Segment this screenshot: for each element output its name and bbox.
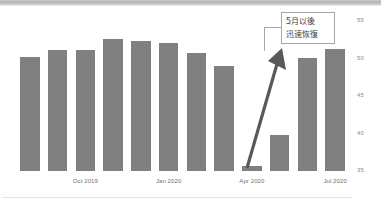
callout-leader-horizontal <box>264 27 282 28</box>
callout-leader-vertical <box>264 27 265 51</box>
callout-line-1: 5月以後 <box>286 15 331 28</box>
recovery-callout-box: 5月以後 迅速恢復 <box>281 12 335 44</box>
bar-chart-plot-area: 55 50 45 40 35 Oct 2019 Jan 2020 Apr 202… <box>0 6 381 198</box>
callout-line-2: 迅速恢復 <box>286 28 331 41</box>
chart-screenshot: 55 50 45 40 35 Oct 2019 Jan 2020 Apr 202… <box>0 0 381 198</box>
